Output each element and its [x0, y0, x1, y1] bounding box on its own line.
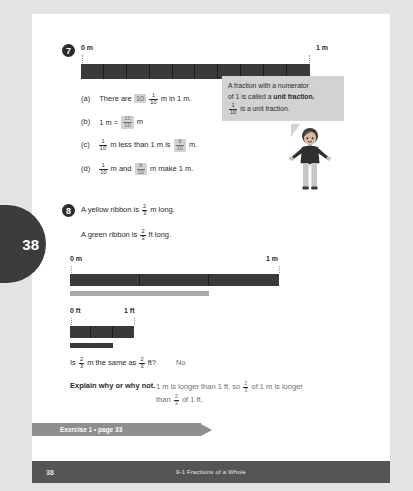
q8-explain-fraction-2: 23	[174, 394, 179, 407]
q8-m-left-tick	[71, 266, 72, 273]
q7-a-answer[interactable]: 10	[134, 94, 146, 103]
question-7-number: 7	[62, 44, 75, 57]
bar-segment	[209, 274, 279, 286]
bar-segment	[70, 274, 140, 286]
q7-scale-labels: 0 m 1 m	[81, 44, 362, 55]
q8-yellow-fraction: 23	[142, 204, 147, 217]
q8-m-right-label: 1 m	[266, 255, 278, 262]
q8-ft-right-tick	[134, 318, 135, 325]
q7-b-post: m	[137, 118, 143, 127]
bar-segment	[140, 274, 210, 286]
bubble-line-3: 110 is a unit fraction.	[228, 103, 338, 116]
q7-c-letter: (c)	[81, 141, 90, 150]
q7-a-fraction: 110	[149, 93, 157, 106]
bubble-line-2: of 1 is called a unit fraction.	[228, 92, 338, 103]
banner-arrow-icon	[201, 424, 212, 436]
q8-feet-bar	[70, 326, 134, 338]
q8-feet-diagram: 0 ft 1 ft	[70, 307, 372, 347]
q7-c-post: m.	[189, 141, 197, 150]
q8-explain-answer[interactable]: 1 m is longer than 1 ft, so 23 of 1 m is…	[156, 381, 303, 406]
q7-b-letter: (b)	[81, 118, 90, 127]
student-character-illustration	[288, 126, 332, 190]
q7-d-fraction: 110	[99, 163, 107, 176]
bar-segment	[91, 326, 112, 338]
q8-meter-bar	[70, 274, 279, 286]
q8-ft-right-label: 1 ft	[124, 307, 135, 314]
speech-bubble: A fraction with a numerator of 1 is call…	[222, 76, 344, 121]
bar-segment	[127, 64, 150, 79]
q8-meter-diagram: 0 m 1 m	[70, 255, 372, 299]
q7-right-label: 1 m	[316, 44, 328, 51]
bar-segment	[70, 326, 91, 338]
unit-fraction-term: unit fraction.	[273, 93, 314, 100]
bar-segment	[173, 64, 196, 79]
bubble-line-1: A fraction with a numerator	[228, 81, 338, 92]
q8-green-ribbon	[70, 343, 113, 348]
q7-d-answer-fraction[interactable]: 910	[135, 163, 147, 176]
q8-yellow-ribbon	[70, 291, 209, 296]
question-8-number: 8	[62, 204, 75, 217]
q8-green-fraction: 23	[140, 229, 145, 242]
q7-d-letter: (d)	[81, 164, 90, 173]
q8-explanation: Explain why or why not. 1 m is longer th…	[70, 381, 372, 406]
q8-ft-left-label: 0 ft	[70, 307, 81, 314]
q7-d-post: m make 1 m.	[150, 164, 193, 173]
bar-segment	[150, 64, 173, 79]
bar-segment	[104, 64, 127, 79]
textbook-page: 7 0 m 1 m (a) There are 10 110 m in 1 m.	[32, 14, 390, 483]
bar-segment	[81, 64, 104, 79]
question-8: 8 A yellow ribbon is 23 m long. A green …	[62, 204, 372, 407]
q8-q-fraction-2: 23	[139, 357, 144, 370]
page-footer: 38 9-1 Fractions of a Whole	[32, 461, 390, 483]
q8-m-left-label: 0 m	[70, 255, 82, 262]
q8-statement-1: A yellow ribbon is 23 m long.	[81, 204, 175, 217]
bar-segment	[195, 64, 218, 79]
q8-q-fraction-1: 23	[79, 357, 84, 370]
q8-comparison-question: Is 23 m the same as 23 ft? No	[70, 357, 372, 370]
q7-d-mid: m and	[111, 164, 132, 173]
q8-statement-2: A green ribbon is 23 ft long.	[81, 229, 372, 242]
q7-a-letter: (a)	[81, 94, 90, 103]
q8-explain-fraction-1: 23	[243, 381, 248, 394]
exercise-banner: Exercise 1 • page 33	[32, 423, 212, 436]
q7-left-label: 0 m	[81, 44, 93, 51]
q7-a-pre: There are	[99, 94, 132, 103]
q7-c-fraction: 110	[99, 139, 107, 152]
q7-b-answer-fraction[interactable]: 1010	[121, 116, 133, 129]
footer-chapter-title: 9-1 Fractions of a Whole	[32, 469, 390, 475]
q8-explain-label: Explain why or why not.	[70, 381, 156, 406]
q7-b-pre: 1 m =	[99, 118, 118, 127]
q7-c-mid: m less than 1 m is	[110, 141, 170, 150]
bar-segment	[113, 326, 134, 338]
q7-right-tick	[309, 55, 310, 63]
q8-ft-left-tick	[71, 318, 72, 325]
bubble-fraction: 110	[229, 103, 237, 116]
exercise-banner-label: Exercise 1 • page 33	[32, 423, 201, 436]
q8-answer-no[interactable]: No	[176, 358, 186, 367]
q8-m-right-tick	[279, 266, 280, 273]
q7-left-tick	[82, 55, 83, 63]
q7-a-post: m in 1 m.	[161, 94, 192, 103]
q7-c-answer-fraction[interactable]: 910	[174, 139, 186, 152]
